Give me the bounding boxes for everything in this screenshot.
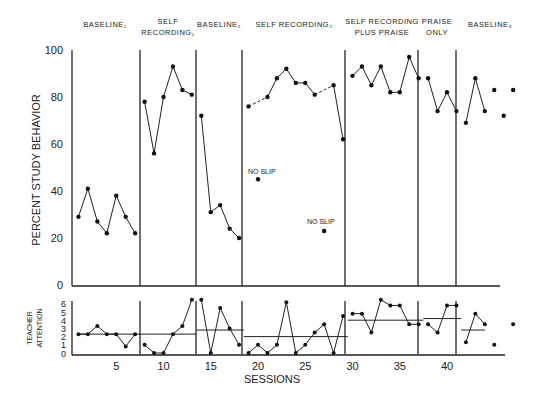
data-point [124, 215, 128, 219]
data-point [105, 231, 109, 235]
attention-point [445, 303, 449, 307]
data-line-segment [97, 222, 106, 234]
single-subject-design-chart: BASELINE₁SELFRECORDING₁BASELINE₂SELF REC… [0, 0, 537, 402]
data-line-segment [154, 97, 163, 153]
data-point [265, 95, 269, 99]
attention-point [379, 298, 383, 302]
attention-point [124, 344, 128, 348]
attention-line-segment [334, 316, 343, 353]
y-tick-label: 100 [45, 44, 63, 56]
attention-point [162, 351, 166, 355]
data-point [360, 64, 364, 68]
attention-point [86, 332, 90, 336]
attention-point [436, 331, 440, 335]
attention-line-segment [466, 314, 475, 343]
data-line-segment [447, 92, 456, 111]
attention-line-segment [362, 314, 371, 333]
y-axis-label-lower-1: TEACHER [26, 311, 33, 344]
data-point [294, 81, 298, 85]
attention-point [256, 343, 260, 347]
x-tick-label: 35 [394, 360, 406, 372]
data-line-segment [78, 189, 87, 217]
phase-header-line2: RECORDING₁ [141, 28, 194, 37]
attention-line-segment [182, 300, 191, 326]
attention-line-segment [371, 300, 380, 333]
attention-line-segment [126, 334, 135, 346]
attention-point [511, 322, 515, 326]
attention-point [322, 322, 326, 326]
data-line-segment [220, 205, 229, 229]
data-line-segment [286, 69, 295, 83]
data-point [473, 76, 477, 80]
data-point [416, 76, 420, 80]
chart-canvas: BASELINE₁SELFRECORDING₁BASELINE₂SELF REC… [0, 0, 537, 402]
data-line-segment [400, 57, 409, 92]
y-tick-label: 0 [57, 279, 63, 291]
data-line-segment [88, 189, 97, 222]
data-point [483, 109, 487, 113]
data-point [350, 74, 354, 78]
phase-header: BASELINE₁ [83, 20, 127, 29]
phase-header: SELF RECORDING₂ [255, 20, 332, 29]
data-point [454, 109, 458, 113]
phase-header: SELF RECORDING [345, 17, 419, 26]
attention-line-segment [475, 314, 484, 325]
phase-header: BASELINE₂ [197, 20, 241, 29]
attention-point [199, 298, 203, 302]
x-axis-label: SESSIONS [244, 373, 300, 385]
data-point [142, 100, 146, 104]
data-line-segment [107, 196, 116, 234]
phase-header: BASELINE₃ [468, 20, 512, 29]
data-line-segment [145, 102, 154, 154]
data-point [388, 90, 392, 94]
y-tick-label: 80 [51, 91, 63, 103]
data-point [313, 92, 317, 96]
data-line-segment [334, 85, 343, 139]
attention-point [351, 312, 355, 316]
x-tick-label: 25 [299, 360, 311, 372]
data-point [86, 186, 90, 190]
data-line-segment [173, 66, 182, 90]
x-tick-label: 40 [441, 360, 453, 372]
data-point [256, 177, 260, 181]
phase-header: PRAISE [422, 17, 453, 26]
data-point [303, 81, 307, 85]
attention-point [388, 303, 392, 307]
data-point [180, 88, 184, 92]
data-point [171, 64, 175, 68]
attention-point [398, 303, 402, 307]
data-line-segment [267, 78, 276, 97]
data-line-segment [475, 78, 484, 111]
attention-point [407, 322, 411, 326]
data-point [209, 210, 213, 214]
attention-point [341, 314, 345, 318]
attention-point [284, 300, 288, 304]
data-point [237, 236, 241, 240]
attention-point [190, 298, 194, 302]
attention-point [360, 312, 364, 316]
attention-point [152, 351, 156, 355]
attention-point [473, 312, 477, 316]
data-line-segment [466, 78, 475, 123]
attention-point [218, 306, 222, 310]
y-tick-label: 20 [51, 232, 63, 244]
attention-line-segment [286, 302, 295, 353]
data-line-segment [381, 66, 390, 92]
attention-point [95, 324, 99, 328]
data-point [322, 229, 326, 233]
phase-headers: BASELINE₁SELFRECORDING₁BASELINE₂SELF REC… [83, 17, 512, 37]
data-line-segment [249, 97, 268, 106]
teacher-attention-plot: 0123456510152025303540 [61, 298, 515, 372]
data-point [227, 226, 231, 230]
data-line-segment [126, 217, 135, 233]
attention-point [171, 332, 175, 336]
attention-line-segment [201, 300, 210, 353]
data-line-segment [438, 92, 447, 111]
attention-point [483, 322, 487, 326]
data-point [152, 151, 156, 155]
phase-header-line2: ONLY [426, 28, 448, 37]
attention-point [454, 303, 458, 307]
attention-line-segment [324, 324, 333, 353]
data-point [379, 64, 383, 68]
data-line-segment [362, 66, 371, 85]
